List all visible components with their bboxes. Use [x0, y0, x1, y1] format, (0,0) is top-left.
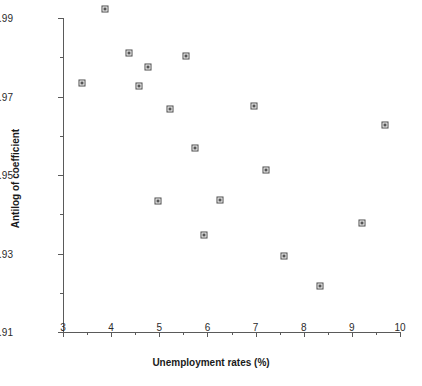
x-tick-mark [328, 332, 329, 335]
data-point-marker [263, 167, 270, 174]
data-point-marker [125, 49, 132, 56]
x-tick-label: 5 [157, 322, 163, 333]
y-tick-mark [58, 175, 63, 176]
x-tick-label: 9 [349, 322, 355, 333]
y-tick-label: 0.99 [0, 13, 13, 24]
x-tick-label: 3 [60, 322, 66, 333]
y-tick-mark [58, 254, 63, 255]
data-point-marker [251, 103, 258, 110]
data-point-marker [216, 196, 223, 203]
x-tick-label: 8 [301, 322, 307, 333]
y-tick-mark [58, 97, 63, 98]
y-tick-mark [60, 293, 63, 294]
x-tick-mark [87, 332, 88, 335]
data-point-marker [382, 121, 389, 128]
x-tick-mark [232, 332, 233, 335]
x-tick-mark [135, 332, 136, 335]
plot-area [63, 18, 400, 332]
data-point-marker [135, 83, 142, 90]
data-point-marker [280, 253, 287, 260]
y-tick-label: 0.91 [0, 327, 13, 338]
y-tick-mark [60, 214, 63, 215]
x-tick-mark [183, 332, 184, 335]
scatter-plot-figure: 0.910.930.950.970.99 345678910 Antilog o… [0, 0, 422, 386]
x-tick-mark [376, 332, 377, 335]
y-tick-mark [60, 136, 63, 137]
data-point-marker [191, 144, 198, 151]
y-tick-label: 0.97 [0, 91, 13, 102]
data-point-marker [317, 283, 324, 290]
x-tick-label: 7 [253, 322, 259, 333]
y-axis-line [63, 18, 64, 332]
data-point-marker [78, 79, 85, 86]
data-point-marker [154, 197, 161, 204]
x-tick-label: 4 [108, 322, 114, 333]
data-point-marker [182, 53, 189, 60]
y-axis-title: Antilog of coefficient [10, 104, 21, 254]
x-tick-mark [280, 332, 281, 335]
data-point-marker [166, 106, 173, 113]
data-point-marker [145, 64, 152, 71]
y-tick-mark [60, 57, 63, 58]
data-point-marker [358, 220, 365, 227]
data-point-marker [201, 231, 208, 238]
x-tick-label: 10 [394, 322, 405, 333]
x-tick-label: 6 [205, 322, 211, 333]
x-axis-title: Unemployment rates (%) [0, 357, 422, 368]
data-point-marker [102, 5, 109, 12]
y-tick-mark [58, 18, 63, 19]
